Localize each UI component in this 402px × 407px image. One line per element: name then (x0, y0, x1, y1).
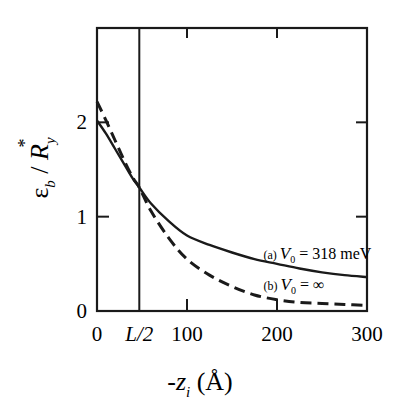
y-axis-label: εb / Ry* (15, 137, 58, 199)
curve-annotations: (a) V0 = 318 meV(b) V0 = ∞ (264, 244, 372, 296)
x-tick-label: 0 (92, 322, 103, 346)
y-tick-label: 0 (77, 299, 88, 323)
y-tick-label: 1 (77, 205, 88, 229)
curve-annotation: (a) V0 = 318 meV (264, 244, 372, 265)
x-axis-label: -zi (Å) (167, 367, 233, 400)
x-tick-label: L/2 (124, 322, 154, 346)
y-tick-label: 2 (77, 110, 88, 134)
curve-annotation: (b) V0 = ∞ (264, 275, 325, 296)
axis-ticks: 0L/2100200300012 (77, 28, 383, 346)
curve-b-infinite-barrier (97, 102, 367, 306)
plot-border (97, 28, 367, 311)
curves (97, 102, 367, 306)
axis-labels: -zi (Å) εb / Ry* (15, 137, 233, 400)
x-tick-label: 300 (351, 322, 383, 346)
plot-frame (97, 28, 367, 311)
line-chart: 0L/2100200300012 (a) V0 = 318 meV(b) V0 … (0, 0, 402, 407)
x-tick-label: 100 (171, 322, 203, 346)
x-tick-label: 200 (261, 322, 293, 346)
